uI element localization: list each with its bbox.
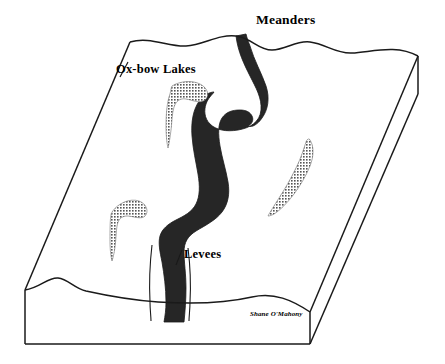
meanders-block-diagram: Meanders Ox-bow Lakes Levees Shane O'Mah…: [0, 0, 445, 364]
credit-signature: Shane O'Mahony: [250, 310, 303, 318]
label-oxbow-lakes: Ox-bow Lakes: [116, 63, 196, 76]
label-meanders: Meanders: [256, 13, 315, 27]
block-diagram-svg: [0, 0, 445, 364]
label-levees: Levees: [184, 248, 221, 261]
